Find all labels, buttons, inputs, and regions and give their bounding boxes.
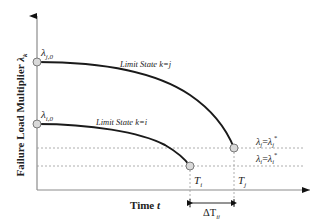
start-marker-j bbox=[33, 58, 41, 66]
threshold-label-i: λi=λi* bbox=[255, 151, 277, 165]
x-axis-label: Time t bbox=[130, 199, 161, 211]
start-marker-i bbox=[33, 120, 41, 128]
time-label-i: Ti bbox=[194, 174, 202, 189]
curve-label-j: Limit State k=j bbox=[119, 59, 172, 69]
y-axis-label: Failure Load Multiplier λk bbox=[14, 53, 29, 177]
end-marker-i bbox=[186, 162, 194, 170]
threshold-label-j: λj=λj* bbox=[255, 134, 277, 148]
time-label-j: Tj bbox=[238, 174, 246, 189]
limit-state-diagram: Failure Load Multiplier λk Time t λj,0 λ… bbox=[0, 0, 325, 219]
start-label-i: λi,0 bbox=[40, 108, 53, 123]
delta-t-label: ΔTij bbox=[203, 207, 220, 219]
curve-label-i: Limit State k=i bbox=[95, 117, 148, 127]
end-marker-j bbox=[230, 144, 238, 152]
curve-limit-state-i bbox=[37, 124, 190, 166]
start-label-j: λj,0 bbox=[40, 46, 53, 61]
